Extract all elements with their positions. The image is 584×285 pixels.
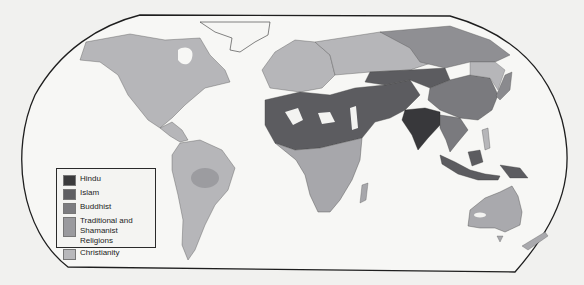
legend: Hindu Islam Buddhist Traditional and Sha… [56, 168, 156, 248]
legend-item-hindu: Hindu [63, 174, 151, 186]
desert-void [474, 213, 486, 218]
legend-label: Christianity [80, 248, 120, 258]
legend-label: Buddhist [80, 202, 111, 212]
legend-item-traditional: Traditional and Shamanist Religions [63, 216, 151, 246]
legend-swatch-traditional [63, 217, 76, 237]
legend-item-buddhist: Buddhist [63, 202, 151, 214]
legend-swatch-islam [63, 189, 76, 200]
legend-label: Islam [80, 188, 99, 198]
legend-label: Hindu [80, 174, 101, 184]
legend-swatch-hindu [63, 175, 76, 186]
legend-item-islam: Islam [63, 188, 151, 200]
legend-swatch-christianity [63, 249, 76, 260]
legend-label: Traditional and Shamanist Religions [80, 216, 151, 246]
legend-swatch-buddhist [63, 203, 76, 214]
legend-item-christianity: Christianity [63, 248, 151, 260]
region-amazon-interior [191, 168, 219, 188]
